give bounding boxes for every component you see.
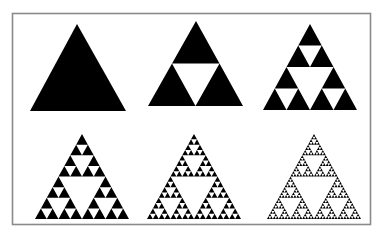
sierpinski-figure	[0, 0, 380, 232]
